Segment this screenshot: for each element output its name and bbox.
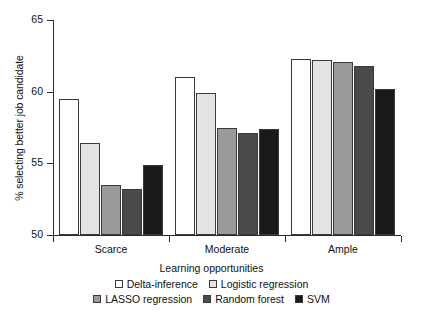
legend-label: Logistic regression (221, 278, 309, 290)
y-tick-label: 55 (31, 156, 43, 168)
legend-item-delta-inference[interactable]: Delta-inference (115, 278, 198, 290)
bar-chart: % selecting better job candidate 5055606… (0, 0, 423, 321)
bar-group-scarce (59, 20, 163, 235)
x-category-label-scarce: Scarce (53, 243, 169, 255)
bar-group-ample (291, 20, 395, 235)
bar-scarce-svm (143, 165, 163, 235)
bar-moderate-logistic-regression (196, 93, 216, 235)
bar-scarce-lasso-regression (101, 185, 121, 235)
legend-swatch-icon-lasso-regression (93, 295, 101, 303)
bar-scarce-logistic-regression (80, 143, 100, 235)
y-tick-label: 60 (31, 85, 43, 97)
plot-area (53, 20, 401, 235)
x-category-label-moderate: Moderate (169, 243, 285, 255)
legend-item-random-forest[interactable]: Random forest (203, 293, 284, 305)
legend-swatch-icon-logistic-regression (209, 280, 217, 288)
bar-ample-svm (375, 89, 395, 235)
x-tick (285, 236, 286, 242)
bar-moderate-svm (259, 129, 279, 235)
x-tick (169, 236, 170, 242)
bar-ample-delta-inference (291, 59, 311, 235)
bar-moderate-delta-inference (175, 77, 195, 235)
x-category-label-ample: Ample (285, 243, 401, 255)
legend-swatch-icon-svm (295, 295, 303, 303)
bar-moderate-lasso-regression (217, 128, 237, 236)
legend-item-logistic-regression[interactable]: Logistic regression (209, 278, 309, 290)
x-tick (53, 236, 54, 242)
bar-ample-logistic-regression (312, 60, 332, 235)
legend-label: Random forest (215, 293, 284, 305)
legend-label: SVM (307, 293, 330, 305)
bar-ample-random-forest (354, 66, 374, 235)
legend-label: LASSO regression (105, 293, 192, 305)
legend-row-1: Delta-inferenceLogistic regression (0, 278, 423, 290)
y-axis-title: % selecting better job candidate (13, 23, 25, 233)
y-tick-label: 50 (31, 228, 43, 240)
legend-swatch-icon-random-forest (203, 295, 211, 303)
y-tick-label: 65 (31, 13, 43, 25)
chart-legend: Delta-inferenceLogistic regressionLASSO … (0, 278, 423, 308)
x-tick (401, 236, 402, 242)
bar-moderate-random-forest (238, 133, 258, 235)
bar-ample-lasso-regression (333, 62, 353, 235)
legend-item-lasso-regression[interactable]: LASSO regression (93, 293, 192, 305)
legend-label: Delta-inference (127, 278, 198, 290)
legend-swatch-icon-delta-inference (115, 280, 123, 288)
x-axis-title: Learning opportunities (0, 262, 423, 274)
legend-row-2: LASSO regressionRandom forestSVM (0, 293, 423, 305)
legend-item-svm[interactable]: SVM (295, 293, 330, 305)
bar-scarce-random-forest (122, 189, 142, 235)
x-axis-line (53, 235, 401, 236)
bar-scarce-delta-inference (59, 99, 79, 235)
bar-group-moderate (175, 20, 279, 235)
